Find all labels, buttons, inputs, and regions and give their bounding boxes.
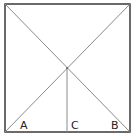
label-a: A — [20, 119, 28, 132]
intersection-point — [66, 67, 68, 69]
label-c: C — [71, 119, 79, 132]
label-b: B — [111, 119, 119, 132]
geometry-diagram: A C B — [0, 0, 135, 139]
